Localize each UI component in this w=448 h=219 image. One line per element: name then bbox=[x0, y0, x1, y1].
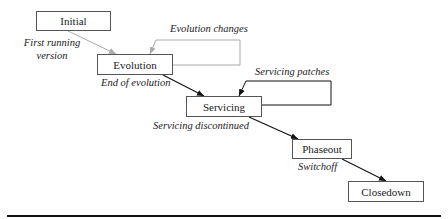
label-first-running-line1: First running bbox=[20, 36, 84, 49]
label-evolution-changes: Evolution changes bbox=[170, 23, 248, 34]
stage-closedown: Closedown bbox=[348, 181, 424, 202]
software-lifecycle-diagram: Initial Evolution Servicing Phaseout Clo… bbox=[0, 0, 448, 219]
stage-initial-label: Initial bbox=[60, 15, 86, 27]
stage-evolution-label: Evolution bbox=[113, 59, 156, 71]
stage-phaseout-label: Phaseout bbox=[302, 143, 342, 155]
label-servicing-discontinued: Servicing discontinued bbox=[153, 120, 249, 131]
stage-phaseout: Phaseout bbox=[292, 139, 352, 159]
label-switchoff: Switchoff bbox=[298, 161, 337, 172]
stage-servicing-label: Servicing bbox=[203, 101, 245, 113]
label-first-running-line2: version bbox=[20, 49, 84, 62]
label-end-of-evolution: End of evolution bbox=[101, 77, 170, 88]
stage-initial: Initial bbox=[36, 11, 111, 31]
label-first-running-version: First running version bbox=[20, 36, 84, 62]
arrow-phaseout-to-closedown bbox=[342, 159, 386, 181]
arrow-servicing-to-phaseout bbox=[249, 117, 298, 139]
label-servicing-patches: Servicing patches bbox=[255, 66, 329, 77]
stage-evolution: Evolution bbox=[97, 54, 173, 75]
bottom-rule bbox=[7, 215, 441, 217]
stage-servicing: Servicing bbox=[186, 96, 262, 117]
stage-closedown-label: Closedown bbox=[361, 186, 411, 198]
